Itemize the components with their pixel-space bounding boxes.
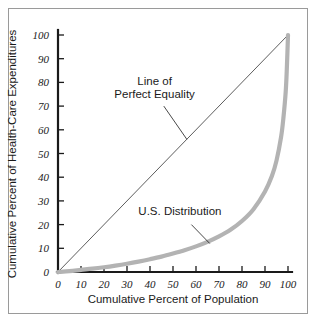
y-axis-ticks: 0102030405060708090100 xyxy=(33,29,65,278)
lorenz-curve-chart: 0102030405060708090100 01020304050607080… xyxy=(0,0,320,330)
x-tick-label-40: 40 xyxy=(145,278,157,290)
x-tick-label-60: 60 xyxy=(191,278,203,290)
annotation-us-distribution: U.S. Distribution xyxy=(138,205,221,217)
y-tick-label-20: 20 xyxy=(38,219,50,231)
y-tick-label-90: 90 xyxy=(38,53,50,65)
annotation-line-of-perfect-equality: Line ofPerfect Equality xyxy=(114,75,195,100)
x-tick-label-0: 0 xyxy=(55,278,61,290)
y-tick-label-100: 100 xyxy=(33,29,50,41)
y-tick-label-40: 40 xyxy=(38,171,50,183)
x-tick-label-90: 90 xyxy=(260,278,272,290)
y-axis-label: Cumulative Percent of Health-Care Expend… xyxy=(6,29,18,278)
y-tick-label-50: 50 xyxy=(38,148,50,160)
y-tick-label-80: 80 xyxy=(38,76,50,88)
annotation-leader-line-of-perfect-equality xyxy=(164,106,187,139)
annotation-leader-us-distribution xyxy=(191,225,209,244)
line-of-perfect-equality-series xyxy=(58,35,288,272)
x-tick-label-50: 50 xyxy=(168,278,180,290)
y-tick-label-0: 0 xyxy=(44,266,50,278)
y-tick-label-70: 70 xyxy=(38,100,50,112)
x-tick-label-100: 100 xyxy=(280,278,297,290)
x-tick-label-30: 30 xyxy=(121,278,134,290)
figure-frame: 0102030405060708090100 01020304050607080… xyxy=(0,0,320,330)
y-tick-label-30: 30 xyxy=(37,195,50,207)
y-tick-label-60: 60 xyxy=(38,124,50,136)
x-tick-label-80: 80 xyxy=(237,278,249,290)
x-tick-label-10: 10 xyxy=(76,278,88,290)
y-tick-label-10: 10 xyxy=(38,242,50,254)
x-tick-label-70: 70 xyxy=(214,278,226,290)
x-axis-label: Cumulative Percent of Population xyxy=(88,293,259,305)
x-tick-label-20: 20 xyxy=(99,278,111,290)
